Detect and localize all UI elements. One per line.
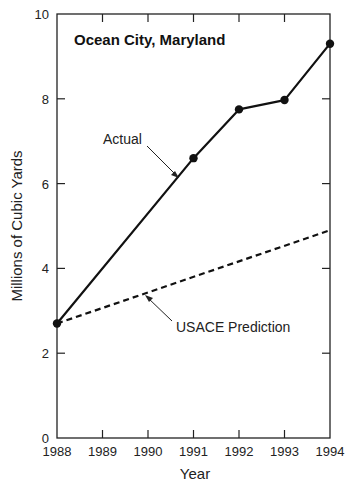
series-lines [53,39,334,327]
x-tick-label: 1988 [43,444,72,459]
x-tick-label: 1990 [134,444,163,459]
y-tick-label: 2 [42,346,49,361]
y-tick-label: 4 [42,261,49,276]
x-tick-label: 1992 [225,444,254,459]
y-tick-label: 8 [42,92,49,107]
annotation-actual: Actual [103,131,142,147]
y-axis-title: Millions of Cubic Yards [8,150,25,301]
x-tick-label: 1993 [270,444,299,459]
arrowhead-icon [171,171,179,178]
annotation-usace-arrow [147,297,172,321]
series-line-actual [57,44,330,324]
chart-title: Ocean City, Maryland [74,31,225,48]
y-tick-label: 6 [42,177,49,192]
data-point-marker [280,96,288,104]
data-point-marker [235,105,243,113]
annotation-actual-arrow [147,146,177,176]
plot-frame [57,14,330,438]
y-tick-label: 10 [35,7,49,22]
chart: 1988198919901991199219931994 0246810 Oce… [0,0,350,487]
annotation-usace: USACE Prediction [176,319,290,335]
x-tick-label: 1991 [179,444,208,459]
data-point-marker [189,154,197,162]
x-tick-label: 1989 [88,444,117,459]
series-line-usace-prediction [57,230,330,323]
data-point-marker [326,39,334,47]
y-ticks: 0246810 [35,7,330,446]
y-tick-label: 0 [42,431,49,446]
x-axis-title: Year [180,465,210,482]
plot-border [57,14,330,438]
x-tick-label: 1994 [316,444,345,459]
